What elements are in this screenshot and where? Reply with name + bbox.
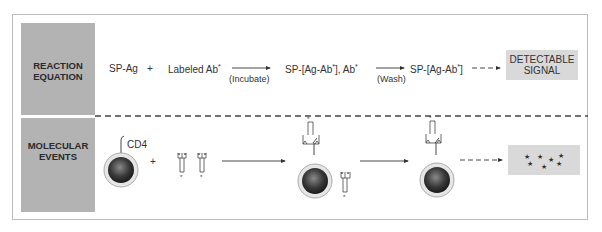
- cell-with-bound-antibody-icon: *: [298, 116, 332, 198]
- free-antibody-icon: [341, 172, 350, 192]
- svg-text:★: ★: [558, 152, 564, 159]
- labeled-antibody-icon: [178, 153, 186, 172]
- svg-text:★: ★: [524, 153, 530, 160]
- signal-stars-icon: ★ ★ ★ ★ ★ ★ ★: [524, 152, 564, 170]
- labeled-antibody-icon: [198, 153, 206, 172]
- svg-text:★: ★: [548, 156, 554, 163]
- antibody-label-star: *: [200, 174, 203, 180]
- washed-cell-icon: *: [420, 115, 454, 197]
- svg-text:*: *: [307, 116, 310, 122]
- svg-text:★: ★: [541, 163, 547, 170]
- cell-with-cd4-icon: [104, 136, 138, 187]
- free-antibody-star: *: [343, 194, 346, 200]
- svg-text:*: *: [429, 115, 432, 121]
- diagram-graphics: * * * * *: [0, 0, 602, 232]
- svg-text:★: ★: [556, 160, 562, 167]
- svg-text:★: ★: [527, 160, 533, 167]
- svg-text:★: ★: [537, 153, 543, 160]
- antibody-label-star: *: [180, 174, 183, 180]
